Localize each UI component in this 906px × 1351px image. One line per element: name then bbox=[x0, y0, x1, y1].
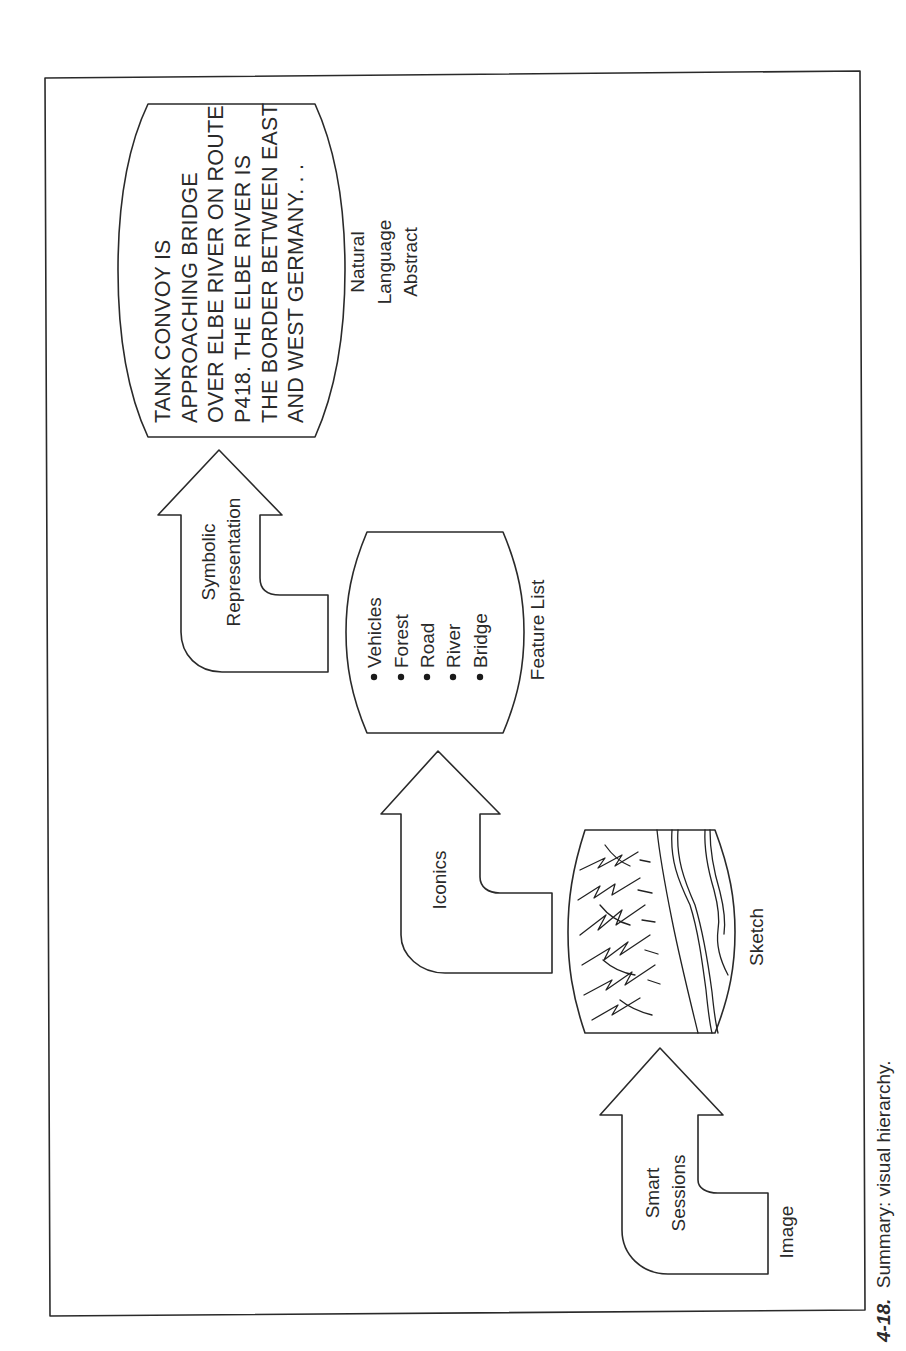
bullet-icon bbox=[424, 674, 430, 680]
natural-language-box: TANK CONVOY IS APPROACHING BRIDGE OVER E… bbox=[118, 103, 345, 437]
feature-text: Road bbox=[417, 623, 438, 668]
image-label: Image bbox=[776, 1206, 797, 1259]
abstract-line: THE BORDER BETWEEN EAST bbox=[258, 103, 282, 423]
bullet-icon bbox=[450, 674, 456, 680]
sketch-label: Sketch bbox=[746, 908, 767, 966]
feature-text: Vehicles bbox=[364, 597, 385, 668]
abstract-line: OVER ELBE RIVER ON ROUTE bbox=[204, 105, 228, 423]
arrow-label: Sessions bbox=[668, 1154, 689, 1231]
abstract-line: P418. THE ELBE RIVER IS bbox=[231, 155, 255, 423]
bullet-icon bbox=[398, 674, 404, 680]
label-line: Language bbox=[374, 220, 395, 305]
feature-text: Bridge bbox=[470, 613, 491, 668]
label-line: Abstract bbox=[400, 226, 421, 296]
arrow-label: Iconics bbox=[429, 850, 450, 909]
arrow-label: Symbolic bbox=[198, 523, 219, 600]
feature-text: River bbox=[443, 623, 464, 668]
abstract-line: AND WEST GERMANY. . . bbox=[284, 164, 308, 423]
symbolic-representation-arrow: Symbolic Representation bbox=[158, 450, 328, 672]
feature-text: Forest bbox=[391, 613, 412, 668]
bullet-icon bbox=[371, 674, 377, 680]
feature-list-box: Vehicles Forest Road River Bridge bbox=[346, 532, 524, 733]
sketch-box bbox=[568, 830, 735, 1033]
iconics-arrow: Iconics bbox=[381, 751, 552, 973]
abstract-line: APPROACHING BRIDGE bbox=[178, 172, 202, 423]
caption-number: 4-18. bbox=[873, 1299, 894, 1343]
arrow-label: Smart bbox=[642, 1167, 663, 1218]
abstract-line: TANK CONVOY IS bbox=[151, 239, 175, 423]
visual-hierarchy-diagram: TANK CONVOY IS APPROACHING BRIDGE OVER E… bbox=[0, 0, 906, 1351]
natural-language-label: Natural Language Abstract bbox=[347, 220, 421, 305]
feature-item: Vehicles bbox=[364, 597, 385, 680]
feature-list-label: Feature List bbox=[527, 579, 548, 680]
caption-text: Summary: visual hierarchy. bbox=[873, 1061, 894, 1289]
bullet-icon bbox=[477, 674, 483, 680]
arrow-label: Representation bbox=[223, 498, 244, 627]
label-line: Natural bbox=[347, 231, 368, 292]
figure-caption: 4-18. Summary: visual hierarchy. bbox=[873, 1061, 894, 1343]
smart-sessions-arrow: Smart Sessions bbox=[600, 1048, 768, 1274]
